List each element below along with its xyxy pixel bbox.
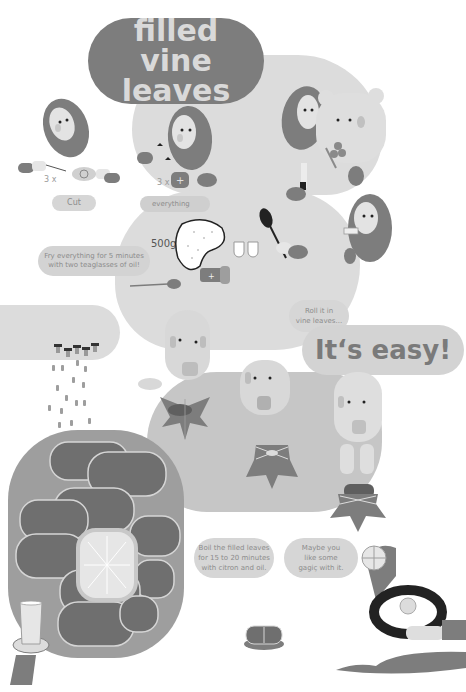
man-rolling-illustration [235, 360, 305, 420]
its-easy-text: It‘s easy! [315, 335, 451, 365]
vine-leaf-rolled-illustration [330, 484, 386, 534]
roll-instruction-line-1: Roll it in [305, 306, 333, 316]
its-easy-bubble: It‘s easy! [302, 325, 464, 375]
man-with-spices-illustration [140, 310, 230, 400]
cut-count: 3 x [44, 175, 56, 184]
everything-count: 3 x [157, 178, 169, 187]
falling-spices-illustration [40, 340, 100, 440]
bear-with-herbs-illustration [296, 88, 396, 198]
gagic-suggestion-line-2: like some [304, 553, 337, 563]
cutting-hands-illustration [16, 155, 116, 185]
tea-glass-illustration [6, 600, 56, 690]
spoon-stirring-illustration [256, 208, 316, 268]
fry-instruction-line-1: Fry everything for 5 minutes [44, 252, 144, 261]
boil-instruction-bubble: Boil the filled leaves for 15 to 20 minu… [194, 538, 274, 578]
dolma-plate-illustration [242, 624, 286, 652]
vine-leaf-folding-illustration [246, 445, 298, 490]
gagic-suggestion-line-1: Maybe you [302, 543, 340, 553]
boil-instruction-line-1: Boil the filled leaves [199, 543, 270, 553]
everything-label: everything [140, 196, 210, 212]
cut-label: Cut [52, 195, 96, 211]
svg-text:+: + [176, 175, 184, 186]
seasoning-hands-illustration: + [135, 140, 235, 195]
spoon-and-shaker-illustration: + [130, 268, 240, 298]
rice-amount: 500g [151, 238, 176, 249]
title-line-1: filled [134, 16, 219, 46]
title-line-2: vine leaves [88, 46, 264, 106]
fry-instruction-line-2: with two teaglasses of oil! [48, 261, 140, 270]
boil-instruction-line-2: for 15 to 20 minutes [198, 553, 270, 563]
title-bubble: filled vine leaves [88, 18, 264, 104]
woman-tasting-illustration [340, 192, 400, 272]
man-holding-leaf-illustration [334, 372, 394, 482]
gagic-bowl-illustration [336, 540, 466, 670]
svg-text:+: + [208, 272, 215, 281]
boil-instruction-line-3: with citron and oil. [201, 563, 266, 573]
